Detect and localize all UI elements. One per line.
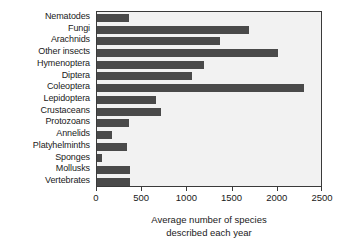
category-label: Mollusks	[0, 163, 93, 175]
x-tick-label: 2500	[311, 192, 332, 203]
bar	[97, 143, 127, 151]
bar-row	[97, 24, 321, 36]
bar	[97, 14, 129, 22]
bar	[97, 72, 192, 80]
bar-row	[97, 59, 321, 71]
x-tick-label: 2000	[266, 192, 287, 203]
bar-row	[97, 47, 321, 59]
x-tick-mark	[141, 187, 142, 191]
bar-row	[97, 153, 321, 165]
category-label: Crustaceans	[0, 105, 93, 117]
bar-row	[97, 164, 321, 176]
bar	[97, 154, 102, 162]
category-label: Sponges	[0, 152, 93, 164]
category-label: Diptera	[0, 70, 93, 82]
category-label: Other insects	[0, 46, 93, 58]
bar-row	[97, 82, 321, 94]
species-bar-chart: NematodesFungiArachnidsOther insectsHyme…	[0, 0, 353, 250]
category-label: Coleoptera	[0, 81, 93, 93]
bar-row	[97, 12, 321, 24]
bar	[97, 131, 112, 139]
x-tick-label: 1000	[176, 192, 197, 203]
bar	[97, 119, 129, 127]
x-axis-title-line: described each year	[96, 227, 322, 240]
category-label: Arachnids	[0, 34, 93, 46]
x-tick-mark	[96, 187, 97, 191]
x-tick-label: 1500	[221, 192, 242, 203]
bar	[97, 84, 304, 92]
bar-row	[97, 94, 321, 106]
bar-row	[97, 141, 321, 153]
x-tick-label: 500	[133, 192, 149, 203]
x-axis-title-line: Average number of species	[96, 214, 322, 227]
bar	[97, 96, 156, 104]
category-label: Platyhelminths	[0, 140, 93, 152]
bar-row	[97, 106, 321, 118]
bar	[97, 178, 130, 186]
x-tick-label: 0	[93, 192, 98, 203]
bar	[97, 108, 161, 116]
x-axis-title: Average number of speciesdescribed each …	[96, 214, 322, 239]
category-label: Nematodes	[0, 11, 93, 23]
bar	[97, 49, 278, 57]
x-tick-mark	[186, 187, 187, 191]
bar-row	[97, 129, 321, 141]
bar	[97, 26, 249, 34]
category-label: Fungi	[0, 23, 93, 35]
bar-row	[97, 117, 321, 129]
category-label: Hymenoptera	[0, 58, 93, 70]
bar-row	[97, 35, 321, 47]
bar-row	[97, 71, 321, 83]
x-tick-mark	[277, 187, 278, 191]
bars-layer	[97, 12, 321, 186]
x-tick-mark	[321, 187, 322, 191]
plot-area	[96, 11, 322, 187]
bar	[97, 37, 220, 45]
category-label: Vertebrates	[0, 175, 93, 187]
x-tick-mark	[232, 187, 233, 191]
category-label: Annelids	[0, 128, 93, 140]
category-label: Protozoans	[0, 116, 93, 128]
category-label: Lepidoptera	[0, 93, 93, 105]
x-axis: 05001000150020002500	[96, 187, 322, 209]
bar	[97, 166, 130, 174]
bar	[97, 61, 204, 69]
category-axis: NematodesFungiArachnidsOther insectsHyme…	[0, 11, 93, 187]
